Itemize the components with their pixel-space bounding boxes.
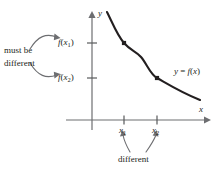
point-marker-x1 bbox=[122, 41, 126, 45]
curve-equation-label: y = f(x) bbox=[174, 67, 200, 76]
curve-label-equals: = bbox=[178, 66, 188, 76]
x-axis-label: x bbox=[199, 105, 203, 114]
x-axis-arrowhead bbox=[204, 116, 211, 123]
fx2-x-glyph: x bbox=[64, 72, 68, 82]
arrow-to-x2-shaft bbox=[146, 135, 156, 152]
x-tick-label-x2: x2 bbox=[152, 126, 159, 135]
function-curve bbox=[107, 12, 200, 100]
fx1-subscript: 1 bbox=[68, 41, 71, 48]
y-axis-label: y bbox=[98, 9, 102, 18]
y-value-label-fx2: f(x2) bbox=[58, 73, 74, 82]
fx2-close-paren: ) bbox=[71, 72, 74, 82]
y-value-label-fx1: f(x1) bbox=[58, 38, 74, 47]
function-graph-figure: y x f(x1) f(x2) x1 x2 y = f(x) must be d… bbox=[0, 0, 216, 169]
x1-subscript: 1 bbox=[123, 129, 126, 136]
arrow-to-x1-shaft bbox=[123, 135, 130, 152]
point-marker-x2 bbox=[155, 76, 159, 80]
tick-marks-group bbox=[87, 43, 157, 125]
left-annotation-note: must be different bbox=[4, 45, 35, 68]
left-note-line1: must be bbox=[4, 45, 35, 55]
bottom-annotation-note: different bbox=[118, 154, 149, 164]
curve-label-close: ) bbox=[197, 66, 200, 76]
fx1-close-paren: ) bbox=[71, 37, 74, 47]
fx2-subscript: 2 bbox=[68, 76, 71, 83]
fx1-x-glyph: x bbox=[64, 37, 68, 47]
figure-canvas bbox=[0, 0, 216, 169]
x2-subscript: 2 bbox=[156, 129, 159, 136]
left-note-line2: different bbox=[4, 58, 35, 68]
y-axis-arrowhead bbox=[88, 11, 95, 18]
x-tick-label-x1: x1 bbox=[119, 126, 126, 135]
